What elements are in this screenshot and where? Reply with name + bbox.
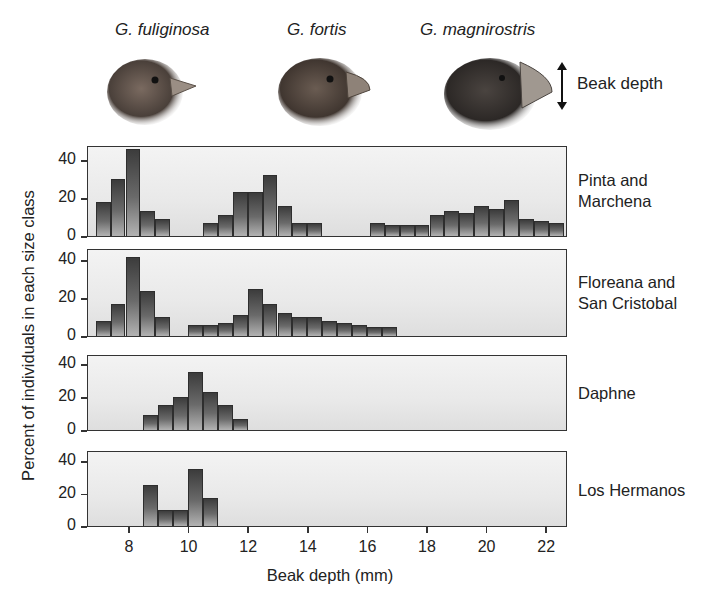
y-tick-mark: [81, 364, 87, 366]
island-label-floreana-san-cristobal: Floreana and San Cristobal: [578, 272, 677, 314]
histogram-bar: [155, 317, 170, 336]
histogram-bar: [140, 211, 155, 236]
histogram-bar: [173, 510, 188, 526]
y-tick-mark: [81, 494, 87, 496]
y-tick-label: 40: [48, 250, 76, 268]
y-tick-mark: [81, 397, 87, 399]
histogram-panel-floreana-san-cristobal: [87, 249, 567, 337]
histogram-bar: [143, 485, 158, 526]
finch-head-fuliginosa-image: [100, 52, 200, 127]
histogram-bar: [140, 291, 155, 336]
y-tick-label: 20: [48, 288, 76, 306]
histogram-bar: [203, 223, 218, 236]
y-tick-mark: [81, 461, 87, 463]
histogram-bar: [307, 223, 322, 236]
histogram-bar: [203, 498, 218, 526]
histogram-bar: [385, 225, 400, 236]
histogram-bar: [111, 304, 126, 336]
histogram-bar: [248, 192, 263, 236]
histogram-bar: [504, 200, 519, 236]
x-tick-label: 18: [412, 538, 442, 556]
x-tick-mark: [188, 526, 190, 533]
histogram-bar: [292, 317, 307, 336]
x-tick-mark: [545, 526, 547, 533]
island-label-pinta-marchena: Pinta and Marchena: [578, 170, 651, 212]
histogram-bar: [155, 219, 170, 236]
histogram-bar: [111, 179, 126, 236]
y-tick-label: 0: [48, 516, 76, 534]
y-tick-mark: [81, 236, 87, 238]
x-tick-label: 16: [352, 538, 382, 556]
y-tick-label: 0: [48, 326, 76, 344]
x-tick-mark: [367, 526, 369, 533]
y-tick-mark: [81, 336, 87, 338]
x-tick-mark: [247, 526, 249, 533]
y-tick-mark: [81, 298, 87, 300]
histogram-bar: [278, 206, 293, 236]
x-tick-mark: [486, 526, 488, 533]
histogram-bar: [489, 209, 504, 236]
histogram-bar: [263, 304, 278, 336]
x-tick-label: 12: [233, 538, 263, 556]
histogram-bar: [549, 223, 564, 236]
y-tick-label: 0: [48, 226, 76, 244]
histogram-panel-los-hermanos: [87, 451, 567, 527]
y-tick-label: 40: [48, 150, 76, 168]
histogram-bar: [203, 325, 218, 336]
x-tick-label: 20: [472, 538, 502, 556]
finch-head-magnirostris-image: [440, 52, 555, 132]
histogram-bar: [188, 372, 203, 430]
species-label-magnirostris: G. magnirostris: [420, 20, 535, 40]
histogram-bar: [263, 175, 278, 236]
histogram-bar: [519, 219, 534, 236]
histogram-bar: [173, 397, 188, 430]
x-tick-label: 10: [174, 538, 204, 556]
histogram-bar: [415, 225, 430, 236]
island-label-los-hermanos: Los Hermanos: [578, 480, 685, 501]
histogram-bar: [96, 321, 111, 336]
histogram-panel-daphne: [87, 355, 567, 431]
histogram-bar: [143, 415, 158, 430]
y-tick-mark: [81, 430, 87, 432]
y-tick-mark: [81, 160, 87, 162]
histogram-bar: [382, 327, 397, 336]
island-label-daphne: Daphne: [578, 383, 636, 404]
histogram-bar: [248, 289, 263, 336]
histogram-bar: [218, 323, 233, 336]
histogram-bar: [96, 202, 111, 236]
x-tick-mark: [426, 526, 428, 533]
histogram-bar: [474, 206, 489, 236]
histogram-bar: [367, 327, 382, 336]
histogram-bar: [158, 510, 173, 526]
y-tick-label: 20: [48, 387, 76, 405]
histogram-bar: [322, 321, 337, 336]
histogram-bar: [534, 221, 549, 236]
histogram-bar: [278, 313, 293, 336]
y-tick-label: 40: [48, 451, 76, 469]
histogram-bar: [370, 223, 385, 236]
double-arrow-icon: [553, 62, 571, 110]
histogram-bar: [307, 317, 322, 336]
histogram-bar: [126, 257, 141, 336]
y-tick-mark: [81, 260, 87, 262]
x-tick-label: 8: [114, 538, 144, 556]
histogram-bar: [188, 325, 203, 336]
histogram-bar: [158, 405, 173, 430]
histogram-bar: [352, 325, 367, 336]
histogram-bar: [337, 323, 352, 336]
histogram-bar: [203, 392, 218, 430]
y-tick-label: 20: [48, 484, 76, 502]
histogram-panel-pinta-marchena: [87, 146, 567, 237]
finch-head-fortis-image: [270, 52, 380, 130]
y-tick-mark: [81, 198, 87, 200]
x-tick-label: 22: [531, 538, 561, 556]
histogram-bar: [430, 215, 445, 236]
histogram-bar: [400, 225, 415, 236]
y-tick-label: 20: [48, 188, 76, 206]
x-tick-mark: [128, 526, 130, 533]
histogram-bar: [126, 149, 141, 236]
histogram-bar: [292, 223, 307, 236]
species-label-fortis: G. fortis: [287, 20, 347, 40]
histogram-bar: [233, 315, 248, 336]
x-tick-mark: [307, 526, 309, 533]
